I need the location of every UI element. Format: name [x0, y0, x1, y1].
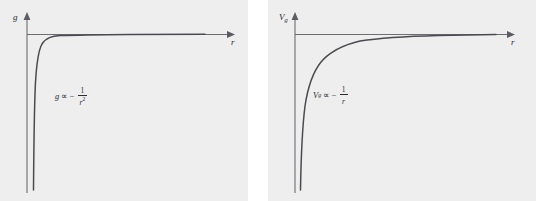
annotation-symbol: g — [55, 91, 59, 101]
annotation-fraction: 1 r — [340, 86, 348, 105]
x-axis-label-r: r — [231, 38, 235, 47]
gravitational-field-plot — [0, 0, 248, 201]
annotation-exponent: 2 — [82, 96, 85, 102]
field-curve — [34, 34, 206, 190]
annotation-proportional-sign: ∝ — [61, 91, 67, 101]
chart-panel-gravitational-potential: Vg r Vg ∝ − 1 r — [268, 0, 536, 201]
annotation-minus-sign: − — [332, 90, 337, 100]
y-axis-label-vg: Vg — [279, 13, 288, 24]
annotation-field-formula: g ∝ − 1 r2 — [55, 87, 87, 106]
annotation-denominator: r2 — [78, 97, 88, 106]
annotation-numerator: 1 — [340, 86, 348, 94]
annotation-minus-sign: − — [70, 91, 75, 101]
annotation-denominator: r — [340, 96, 347, 105]
annotation-proportional-sign: ∝ — [323, 90, 329, 100]
annotation-symbol-subscript: g — [318, 92, 321, 98]
y-axis-arrow-head — [24, 12, 31, 20]
annotation-potential-formula: Vg ∝ − 1 r — [313, 86, 348, 105]
annotation-fraction: 1 r2 — [78, 87, 88, 106]
y-axis-label-subscript: g — [285, 16, 288, 23]
y-axis-label-g: g — [13, 13, 18, 22]
x-axis-label-r: r — [511, 38, 515, 47]
gravitational-potential-plot — [268, 0, 536, 201]
potential-curve — [301, 35, 497, 190]
figure-container: g r g ∝ − 1 r2 Vg — [0, 0, 536, 201]
chart-panel-gravitational-field: g r g ∝ − 1 r2 — [0, 0, 248, 201]
y-axis-arrow-head — [292, 12, 299, 20]
annotation-numerator: 1 — [79, 87, 87, 95]
